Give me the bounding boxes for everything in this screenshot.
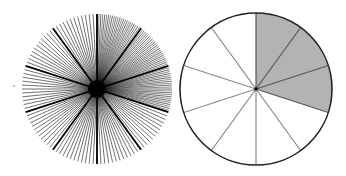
radial-lines-circle — [22, 14, 172, 164]
sector-divider — [211, 28, 256, 89]
sector-pie-circle — [180, 13, 332, 165]
pie-center-dot — [254, 87, 258, 91]
fraction-circles-diagram — [0, 0, 346, 176]
sector-divider — [184, 89, 256, 112]
center-hub — [88, 80, 106, 98]
sector-divider — [184, 66, 256, 89]
edge-mark — [13, 85, 15, 87]
sector-divider — [211, 89, 256, 150]
